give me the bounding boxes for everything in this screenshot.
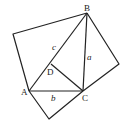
left-square <box>13 13 87 91</box>
label-side-c: c <box>52 42 56 52</box>
label-B: B <box>84 3 90 13</box>
bottom-square <box>29 91 83 119</box>
diagram-canvas: B A C D c a b <box>0 0 126 127</box>
side-c-AB <box>29 13 87 91</box>
geometry-diagram: B A C D c a b <box>0 0 126 127</box>
label-side-b: b <box>51 93 56 103</box>
label-A: A <box>21 87 28 97</box>
altitude-CD <box>51 64 83 91</box>
label-D: D <box>47 67 54 77</box>
label-side-a: a <box>87 52 92 62</box>
label-C: C <box>82 93 88 103</box>
